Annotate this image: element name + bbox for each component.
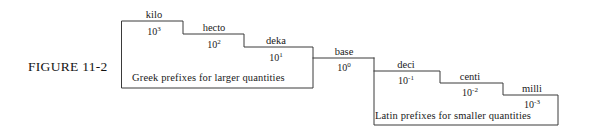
step-label-milli: milli <box>506 84 558 95</box>
power-base-base: 10 <box>337 62 347 73</box>
step-label-hecto: hecto <box>188 23 240 34</box>
power-base-deka: 10 <box>269 52 279 63</box>
step-power-base: 100 <box>318 63 370 73</box>
step-power-deci: 10-1 <box>380 76 432 86</box>
power-exponent-centi: -2 <box>472 86 478 94</box>
step-power-hecto: 102 <box>188 40 240 50</box>
power-exponent-kilo: 3 <box>157 25 161 33</box>
step-power-centi: 10-2 <box>444 88 496 98</box>
caption-greek-prefixes: Greek prefixes for larger quantities <box>132 73 285 84</box>
power-base-kilo: 10 <box>147 26 157 37</box>
step-label-base: base <box>318 47 370 58</box>
power-exponent-deci: -1 <box>408 74 414 82</box>
step-power-deka: 101 <box>250 53 302 63</box>
power-base-hecto: 10 <box>207 39 217 50</box>
figure-container: FIGURE 11-2 kilo 103 hecto 102 deka 101 … <box>0 0 591 136</box>
power-base-centi: 10 <box>462 87 472 98</box>
power-base-milli: 10 <box>524 99 534 110</box>
power-base-deci: 10 <box>398 75 408 86</box>
step-power-kilo: 103 <box>128 27 180 37</box>
step-power-milli: 10-3 <box>506 100 558 110</box>
power-exponent-base: 0 <box>347 61 351 69</box>
step-label-deka: deka <box>250 36 302 47</box>
power-exponent-milli: -3 <box>534 98 540 106</box>
step-label-kilo: kilo <box>128 10 180 21</box>
power-exponent-hecto: 2 <box>217 38 221 46</box>
step-label-centi: centi <box>444 72 496 83</box>
caption-latin-prefixes: Latin prefixes for smaller quantities <box>375 111 531 122</box>
step-label-deci: deci <box>380 60 432 71</box>
figure-number-label: FIGURE 11-2 <box>28 60 108 74</box>
power-exponent-deka: 1 <box>279 51 283 59</box>
